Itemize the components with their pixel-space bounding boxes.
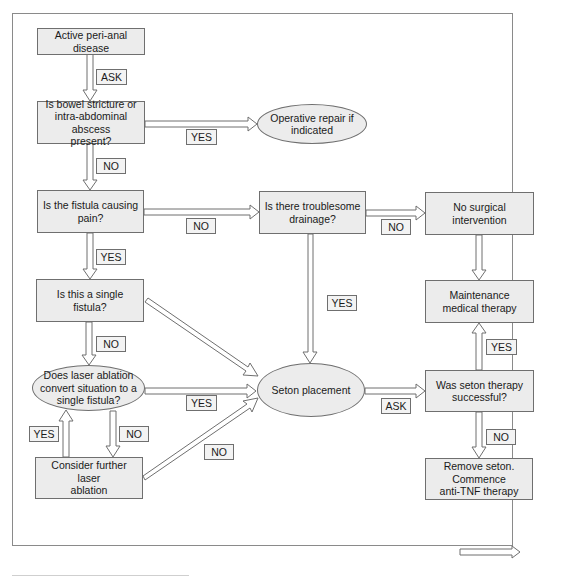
label-laser-to-seton: YES [186, 395, 217, 411]
node-bowel-check: Is bowel stricture or intra-abdominal ab… [37, 101, 145, 144]
node-seton-success: Was seton therapy successful? [425, 370, 534, 412]
node-maintenance: Maintenance medical therapy [425, 280, 534, 323]
node-pain-check: Is the fistula causing pain? [37, 190, 144, 233]
arrow-success-to-maintenance [472, 323, 486, 370]
label-further-to-laser: YES [29, 426, 59, 442]
arrow-bowel-to-pain [83, 143, 97, 190]
caption-divider [12, 575, 189, 576]
hollow-arrow-right-icon [460, 546, 520, 558]
label-laser-to-further: NO [119, 426, 149, 442]
label-bowel-to-pain: NO [96, 158, 126, 174]
arrow-success-to-remove [472, 412, 486, 458]
node-operative-repair: Operative repair if indicated [257, 104, 367, 144]
arrow-single-to-laser [82, 322, 96, 365]
label-further-to-seton: NO [204, 444, 234, 460]
label-success-to-maintenance: YES [486, 339, 517, 355]
arrow-single-to-seton [145, 298, 258, 376]
arrow-seton-to-success [365, 384, 425, 398]
arrow-laser-to-further [106, 411, 120, 457]
node-remove-seton: Remove seton. Commence anti-TNF therapy [425, 458, 533, 500]
node-no-surgery: No surgical intervention [425, 192, 534, 235]
arrow-further-to-laser [59, 410, 73, 457]
arrow-nosurgery-to-maintenance [472, 235, 486, 280]
arrow-pain-to-single [83, 233, 97, 279]
flowchart-canvas: .shaft { fill:#ffffff; stroke:#6f6f6f; s… [0, 0, 561, 584]
node-further-laser: Consider further laser ablation [35, 457, 143, 499]
label-pain-to-drainage: NO [186, 218, 216, 234]
node-drainage-check: Is there troublesome drainage? [259, 191, 366, 234]
arrow-pain-to-drainage [144, 205, 259, 219]
label-pain-to-single: YES [96, 249, 126, 265]
label-drainage-to-nosurgery: NO [381, 219, 411, 235]
node-laser-check: Does laser ablation convert situation to… [32, 365, 145, 411]
arrow-drainage-to-seton [303, 234, 317, 363]
label-seton-to-success: ASK [381, 398, 411, 414]
arrow-drainage-to-nosurgery [366, 206, 425, 220]
label-success-to-remove: NO [486, 429, 516, 445]
label-drainage-to-seton: YES [327, 295, 357, 311]
label-start-to-bowel: ASK [96, 69, 127, 85]
label-single-to-laser: NO [96, 336, 126, 352]
node-start: Active peri-anal disease [37, 28, 145, 55]
node-seton-placement: Seton placement [257, 363, 365, 417]
label-bowel-to-repair: YES [186, 129, 217, 145]
node-single-check: Is this a single fistula? [36, 279, 144, 322]
arrow-start-to-bowel [83, 54, 97, 101]
